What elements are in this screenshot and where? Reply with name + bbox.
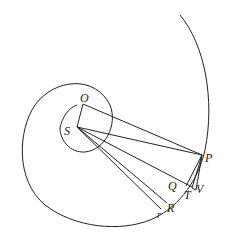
label-S: S [64,125,70,137]
label-P: P [205,152,212,164]
label-Q: Q [168,180,177,192]
label-O: O [80,92,89,104]
label-R: R [167,202,174,214]
label-V: V [196,183,203,195]
line-SR [77,127,167,203]
line-Sr [77,127,161,209]
line-SP [77,127,202,155]
line-OS [77,104,83,127]
spiral-curve [22,15,209,227]
diagram-canvas: O S P Q T V R r [0,0,226,243]
spiral-diagram [0,0,226,243]
label-T: T [184,189,191,201]
line-SQ [77,127,192,187]
label-r: r [157,210,161,220]
